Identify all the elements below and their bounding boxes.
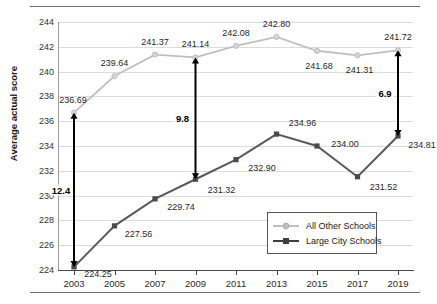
value-label-all-other-schools-2009: 241.14 bbox=[182, 39, 210, 49]
chart-page: 224226228230232234236238240242244 Averag… bbox=[0, 0, 437, 304]
legend-swatch-square-icon bbox=[272, 235, 300, 246]
value-label-large-city-schools-2017: 231.52 bbox=[370, 182, 398, 192]
y-tick-label-232: 232 bbox=[39, 166, 54, 176]
x-tick-label-2007: 2007 bbox=[144, 278, 165, 289]
x-tick-mark-2009 bbox=[196, 270, 197, 275]
x-tick-mark-2013 bbox=[277, 270, 278, 275]
x-tick-mark-2007 bbox=[155, 270, 156, 275]
x-tick-mark-2019 bbox=[398, 270, 399, 275]
y-tick-label-226: 226 bbox=[39, 240, 54, 250]
y-axis-label: Average actual score bbox=[8, 49, 19, 179]
top-divider-rule bbox=[30, 6, 420, 7]
value-label-large-city-schools-2011: 232.90 bbox=[248, 163, 276, 173]
y-axis-line bbox=[58, 22, 59, 270]
x-tick-label-2005: 2005 bbox=[104, 278, 125, 289]
value-label-large-city-schools-2007: 229.74 bbox=[167, 202, 195, 212]
x-tick-label-2011: 2011 bbox=[226, 278, 246, 289]
value-label-large-city-schools-2013: 234.96 bbox=[289, 118, 317, 128]
x-tick-label-2009: 2009 bbox=[185, 278, 206, 289]
x-tick-mark-2005 bbox=[115, 270, 116, 275]
gridline-244 bbox=[58, 22, 413, 23]
y-tick-label-242: 242 bbox=[39, 42, 54, 52]
value-label-all-other-schools-2005: 239.64 bbox=[101, 58, 129, 68]
gridline-230 bbox=[58, 196, 413, 197]
value-label-large-city-schools-2005: 227.56 bbox=[125, 229, 153, 239]
gridline-236 bbox=[58, 121, 413, 122]
y-tick-label-224: 224 bbox=[39, 265, 54, 275]
gridline-234 bbox=[58, 146, 413, 147]
value-label-all-other-schools-2011: 242.08 bbox=[222, 28, 250, 38]
y-tick-label-244: 244 bbox=[39, 17, 54, 27]
value-label-all-other-schools-2003: 236.69 bbox=[59, 95, 87, 105]
x-tick-label-2013: 2013 bbox=[266, 278, 287, 289]
value-label-large-city-schools-2009: 231.32 bbox=[208, 185, 236, 195]
value-label-large-city-schools-2019: 234.81 bbox=[408, 140, 436, 150]
legend-label-all-other-schools: All Other Schools bbox=[300, 221, 376, 231]
x-tick-mark-2003 bbox=[74, 270, 75, 275]
value-label-all-other-schools-2015: 241.68 bbox=[305, 61, 333, 71]
annotation-label-gap-2019: 6.9 bbox=[376, 88, 393, 99]
legend-item-large-city-schools[interactable]: Large City Schools bbox=[272, 233, 372, 248]
value-label-large-city-schools-2003: 224.25 bbox=[84, 269, 112, 279]
y-tick-label-228: 228 bbox=[39, 215, 54, 225]
legend-label-large-city-schools: Large City Schools bbox=[300, 236, 382, 246]
x-tick-label-2003: 2003 bbox=[63, 278, 84, 289]
value-label-all-other-schools-2007: 241.37 bbox=[141, 37, 169, 47]
x-tick-label-2019: 2019 bbox=[387, 278, 408, 289]
gridline-238 bbox=[58, 96, 413, 97]
annotation-label-gap-2009: 9.8 bbox=[174, 113, 191, 124]
gridline-232 bbox=[58, 171, 413, 172]
y-tick-label-240: 240 bbox=[39, 67, 54, 77]
bottom-divider-rule bbox=[30, 292, 420, 293]
y-tick-label-238: 238 bbox=[39, 91, 54, 101]
x-tick-mark-2015 bbox=[317, 270, 318, 275]
legend-item-all-other-schools[interactable]: All Other Schools bbox=[272, 218, 372, 233]
x-tick-label-2017: 2017 bbox=[347, 278, 368, 289]
y-tick-label-234: 234 bbox=[39, 141, 54, 151]
value-label-large-city-schools-2015: 234.00 bbox=[331, 139, 359, 149]
annotation-label-gap-2003: 12.4 bbox=[50, 184, 73, 195]
x-tick-label-2015: 2015 bbox=[306, 278, 327, 289]
y-tick-label-236: 236 bbox=[39, 116, 54, 126]
chart-legend: All Other Schools Large City Schools bbox=[267, 212, 377, 254]
gridline-242 bbox=[58, 47, 413, 48]
legend-swatch-circle-icon bbox=[272, 220, 300, 231]
value-label-all-other-schools-2017: 241.31 bbox=[346, 65, 374, 75]
value-label-all-other-schools-2013: 242.80 bbox=[263, 19, 291, 29]
x-tick-mark-2011 bbox=[236, 270, 237, 275]
x-tick-mark-2017 bbox=[358, 270, 359, 275]
y-axis-ticks: 224226228230232234236238240242244 bbox=[22, 22, 54, 270]
value-label-all-other-schools-2019: 241.72 bbox=[384, 32, 412, 42]
